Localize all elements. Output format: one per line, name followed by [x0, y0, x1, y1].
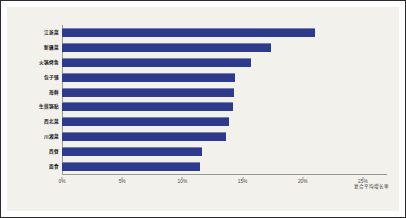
category-label: 火锅烤鱼: [13, 58, 59, 67]
bar[interactable]: [62, 73, 235, 82]
bar[interactable]: [62, 58, 251, 67]
plot-area: [62, 25, 387, 175]
x-axis-title: 复合平均增长率: [354, 183, 389, 189]
bar[interactable]: [62, 147, 202, 156]
category-label: 海鲜: [13, 88, 59, 97]
x-tick-label: 15%: [238, 179, 248, 184]
bar-rows: [62, 25, 387, 174]
category-label: 江浙菜: [13, 28, 59, 37]
bar-row: [62, 117, 387, 126]
category-label: 包子铺: [13, 73, 59, 82]
x-tick-label: 10%: [178, 179, 188, 184]
x-axis-ticks: 0%5%10%15%20%25%: [62, 179, 387, 189]
category-axis-labels: 江浙菜新疆菜火锅烤鱼包子铺海鲜生煎锅贴西北菜川湘菜西餐面食: [13, 25, 59, 174]
bar[interactable]: [62, 117, 229, 126]
bar-row: [62, 43, 387, 52]
category-label: 西北菜: [13, 117, 59, 126]
x-tick-label: 20%: [298, 179, 308, 184]
category-label: 新疆菜: [13, 43, 59, 52]
bar-row: [62, 132, 387, 141]
category-label: 面食: [13, 162, 59, 171]
bar-row: [62, 88, 387, 97]
bar-row: [62, 147, 387, 156]
bar[interactable]: [62, 88, 234, 97]
bar-row: [62, 162, 387, 171]
bar-row: [62, 102, 387, 111]
bar-row: [62, 58, 387, 67]
bar-row: [62, 28, 387, 37]
bar[interactable]: [62, 28, 315, 37]
bar-row: [62, 73, 387, 82]
category-label: 西餐: [13, 147, 59, 156]
chart-frame: 江浙菜新疆菜火锅烤鱼包子铺海鲜生煎锅贴西北菜川湘菜西餐面食 0%5%10%15%…: [0, 0, 406, 218]
x-tick-label: 0%: [59, 179, 66, 184]
bar[interactable]: [62, 43, 271, 52]
x-axis-line: [62, 174, 387, 175]
bar[interactable]: [62, 102, 233, 111]
bar[interactable]: [62, 162, 200, 171]
bar[interactable]: [62, 132, 226, 141]
chart-canvas: 江浙菜新疆菜火锅烤鱼包子铺海鲜生煎锅贴西北菜川湘菜西餐面食 0%5%10%15%…: [7, 7, 399, 211]
x-tick-label: 5%: [119, 179, 126, 184]
category-label: 川湘菜: [13, 132, 59, 141]
category-label: 生煎锅贴: [13, 102, 59, 111]
